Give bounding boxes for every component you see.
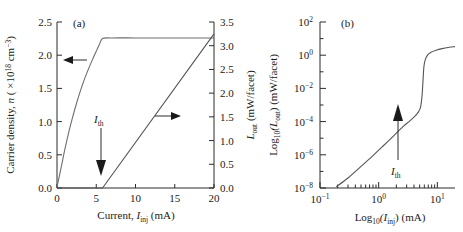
panel-b-y-ticks: 10210010−210−410−610−8 xyxy=(294,15,326,194)
panel-a-xtick-label: 10 xyxy=(130,192,142,204)
panel-a-ytick-left-label: 1.5 xyxy=(38,82,52,94)
panel-a-ylabel-right: Lout (mW/facet) xyxy=(244,70,259,140)
panel-b-axis-frame xyxy=(320,22,455,188)
right-axis-pointer-arrow xyxy=(155,112,181,120)
panel-a-xtick-label: 20 xyxy=(209,192,221,204)
panel-a-xtick-label: 5 xyxy=(94,192,100,204)
panel-a-xlabel: Current, Iinj (mA) xyxy=(97,209,175,224)
panel-a-ytick-left-label: 2.0 xyxy=(38,49,52,61)
panel-a-threshold-label: Ith xyxy=(93,113,104,128)
panel-a-ytick-left-label: 0.0 xyxy=(38,182,52,194)
panel-b-xtick-label: 101 xyxy=(430,192,445,205)
panel-a-label: (a) xyxy=(73,17,86,30)
panel-a-ytick-left-label: 1.0 xyxy=(38,116,52,128)
panel-a-axis-frame xyxy=(57,22,214,188)
figure-container: 05101520 0.00.51.01.52.02.5 0.00.51.01.5… xyxy=(0,0,463,232)
panel-a-xtick-label: 0 xyxy=(54,192,60,204)
light-output-curve xyxy=(57,34,214,188)
panel-a-ytick-right-label: 3.0 xyxy=(220,40,234,52)
panel-a-ylabel-left: Carrier density, n ( ×1018 cm−3) xyxy=(4,36,18,174)
panel-b-ytick-label: 100 xyxy=(298,48,313,61)
panel-a: 05101520 0.00.51.01.52.02.5 0.00.51.01.5… xyxy=(4,16,259,224)
left-axis-pointer-arrow xyxy=(63,56,87,64)
panel-a-ytick-right-label: 3.5 xyxy=(220,16,234,28)
panel-b-axes xyxy=(320,22,455,188)
panel-b: 10−1100101 10210010−210−410−610−8 Ith (b… xyxy=(267,15,455,226)
panel-b-threshold-marker: Ith xyxy=(390,104,403,180)
panel-a-ytick-right-label: 0.0 xyxy=(220,182,234,194)
panel-a-threshold-marker: Ith xyxy=(93,113,106,176)
panel-a-axes xyxy=(57,22,214,188)
panel-b-ylabel: Log10(Lout) (mW/facet) xyxy=(267,54,282,156)
figure-svg: 05101520 0.00.51.01.52.02.5 0.00.51.01.5… xyxy=(0,0,463,232)
panel-b-threshold-label: Ith xyxy=(390,165,401,180)
panel-a-ytick-right-label: 0.5 xyxy=(220,158,234,170)
panel-a-ytick-left-label: 0.5 xyxy=(38,149,52,161)
panel-a-x-ticks: 05101520 xyxy=(54,184,220,204)
panel-b-ytick-label: 10−6 xyxy=(294,148,313,161)
panel-b-xtick-label: 10−1 xyxy=(311,192,330,205)
panel-a-ytick-right-label: 1.5 xyxy=(220,111,234,123)
panel-a-ytick-right-label: 1.0 xyxy=(220,135,234,147)
panel-b-ytick-label: 10−4 xyxy=(294,115,313,128)
panel-a-ytick-right-label: 2.0 xyxy=(220,87,234,99)
panel-a-y-ticks-right: 0.00.51.01.52.02.53.03.5 xyxy=(209,16,234,194)
panel-a-xtick-label: 15 xyxy=(169,192,181,204)
panel-a-ytick-left-label: 2.5 xyxy=(38,16,52,28)
panel-a-y-ticks-left: 0.00.51.01.52.02.5 xyxy=(38,16,62,194)
panel-a-ytick-right-label: 2.5 xyxy=(220,63,234,75)
panel-b-xlabel: Log10(Iinj) (mA) xyxy=(355,211,426,226)
panel-b-xtick-label: 100 xyxy=(371,192,386,205)
panel-b-ytick-label: 102 xyxy=(298,15,313,28)
panel-b-ytick-label: 10−2 xyxy=(294,81,313,94)
panel-b-label: (b) xyxy=(341,17,354,30)
panel-b-x-ticks: 10−1100101 xyxy=(311,182,445,205)
